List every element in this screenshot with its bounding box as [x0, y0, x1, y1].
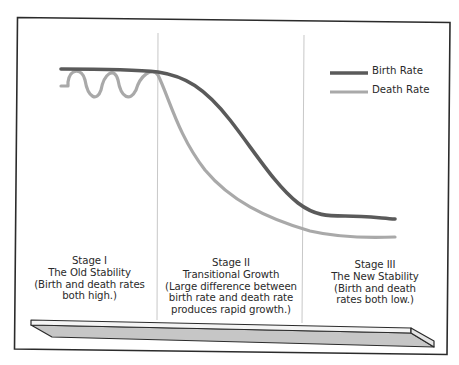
- stage-2-name: Transitional Growth: [158, 269, 304, 281]
- legend-label-death-rate: Death Rate: [372, 84, 429, 95]
- stage-1-desc-1: (Birth and death rates: [22, 279, 157, 291]
- death-rate-curve: [61, 71, 395, 237]
- stage-1-title: Stage I: [22, 255, 157, 267]
- stage-2-desc-2: birth rate and death rate: [158, 292, 304, 304]
- legend-label-birth-rate: Birth Rate: [372, 65, 423, 76]
- stage-3-name: The New Stability: [306, 271, 444, 283]
- stage-3-desc-1: (Birth and death: [306, 283, 444, 295]
- stage-3-label: Stage III The New Stability (Birth and d…: [306, 259, 444, 306]
- stage-1-desc-2: both high.): [22, 290, 157, 302]
- stage-1-name: The Old Stability: [22, 267, 157, 279]
- stage-2-label: Stage II Transitional Growth (Large diff…: [158, 257, 304, 316]
- stage-1-label: Stage I The Old Stability (Birth and dea…: [22, 255, 157, 302]
- stage-2-desc-1: (Large difference between: [158, 281, 304, 293]
- stage-3-desc-2: rates both low.): [306, 294, 444, 306]
- stage-3-title: Stage III: [306, 259, 444, 271]
- stage-2-title: Stage II: [158, 257, 304, 269]
- stage-2-desc-3: produces rapid growth.): [158, 304, 304, 316]
